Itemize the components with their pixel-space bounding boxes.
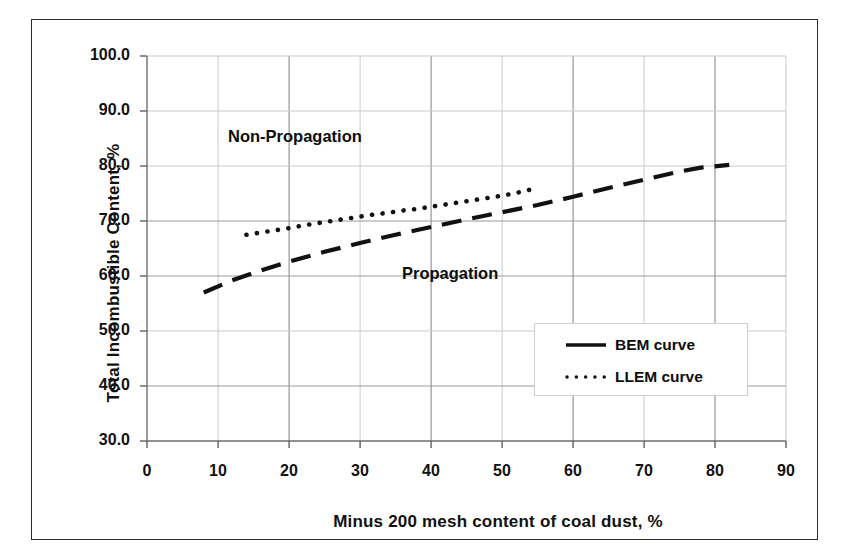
chart-legend: BEM curve LLEM curve bbox=[534, 323, 748, 396]
x-axis-ticks bbox=[147, 441, 786, 448]
legend-item-llem: LLEM curve bbox=[535, 362, 749, 392]
legend-label-llem: LLEM curve bbox=[615, 368, 703, 386]
legend-item-bem: BEM curve bbox=[535, 330, 749, 360]
x-axis-title: Minus 200 mesh content of coal dust, % bbox=[178, 512, 818, 532]
x-tick-label: 20 bbox=[269, 462, 309, 480]
x-tick-label: 80 bbox=[695, 462, 735, 480]
y-axis-title: Total Incombustible Content, % bbox=[104, 108, 124, 438]
x-tick-label: 40 bbox=[411, 462, 451, 480]
legend-dash-line-icon bbox=[565, 338, 607, 352]
x-tick-label: 30 bbox=[340, 462, 380, 480]
x-tick-label: 60 bbox=[553, 462, 593, 480]
x-tick-label: 50 bbox=[482, 462, 522, 480]
annotation-propagation: Propagation bbox=[402, 264, 498, 283]
annotation-non-propagation: Non-Propagation bbox=[228, 127, 362, 146]
x-tick-label: 90 bbox=[766, 462, 806, 480]
legend-dotted-line-icon bbox=[565, 370, 607, 384]
x-tick-label: 10 bbox=[198, 462, 238, 480]
x-tick-label: 0 bbox=[127, 462, 167, 480]
figure-frame: 100.0 90.0 80.0 70.0 60.0 50.0 40.0 30.0… bbox=[31, 19, 818, 540]
x-tick-label: 70 bbox=[624, 462, 664, 480]
legend-label-bem: BEM curve bbox=[615, 336, 695, 354]
series-dotted bbox=[246, 187, 537, 235]
y-tick-label: 100.0 bbox=[60, 46, 130, 64]
y-axis-ticks bbox=[140, 56, 147, 441]
chart-figure: 100.0 90.0 80.0 70.0 60.0 50.0 40.0 30.0… bbox=[0, 0, 849, 560]
